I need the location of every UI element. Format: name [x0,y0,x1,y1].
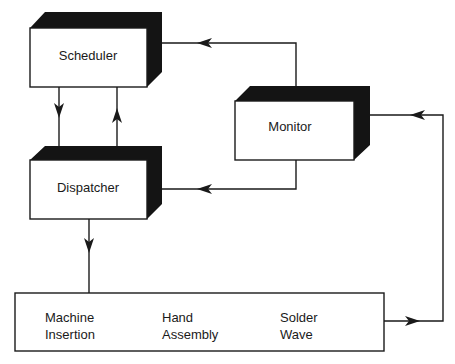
dispatcher-label: Dispatcher [57,180,120,195]
station-hand-assembly-line1: Hand [162,310,193,325]
edge-dispatcher-to-shop-floor [84,219,94,293]
monitor-label: Monitor [268,119,312,134]
dispatcher-box: Dispatcher [30,146,162,219]
edge-scheduler-to-dispatcher [54,87,64,146]
scheduler-label: Scheduler [59,48,118,63]
station-solder-wave-line1: Solder [280,310,318,325]
edge-monitor-to-dispatcher [162,160,296,194]
station-machine-insertion-line2: Insertion [45,327,95,342]
monitor-box: Monitor [235,86,370,160]
edge-dispatcher-to-scheduler [112,87,122,146]
shop-floor-box: Machine Insertion Hand Assembly Solder W… [15,293,384,351]
station-machine-insertion-line1: Machine [45,310,94,325]
production-control-diagram: Scheduler Dispatcher Monitor Machine Ins… [0,0,455,364]
station-hand-assembly-line2: Assembly [162,327,219,342]
edge-monitor-to-scheduler [162,38,296,86]
station-solder-wave-line2: Wave [280,327,313,342]
scheduler-box: Scheduler [30,12,162,87]
